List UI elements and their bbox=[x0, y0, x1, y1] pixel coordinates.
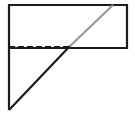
figure-background bbox=[0, 0, 135, 118]
geometry-figure bbox=[0, 0, 135, 118]
